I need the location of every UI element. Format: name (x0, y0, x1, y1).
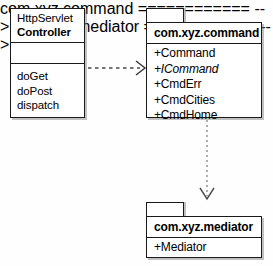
connector-command-to-mediator[interactable] (0, 0, 273, 266)
open-arrow-head (200, 188, 214, 199)
uml-diagram-canvas: HttpServlet Controller doGet doPost disp… (0, 0, 273, 266)
dependency-arrow-vertical (0, 0, 273, 266)
